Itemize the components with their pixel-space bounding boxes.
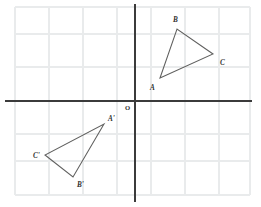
vertex-label-c: C xyxy=(220,59,225,67)
coordinate-plane-svg: A B C A' B' C' O xyxy=(0,0,261,207)
vertex-label-a: A xyxy=(149,84,155,92)
triangle-a-prime-outline xyxy=(45,124,104,177)
triangle-abc-outline xyxy=(160,29,213,78)
triangle-a-prime-b-prime-c-prime xyxy=(45,124,104,177)
origin-label: O xyxy=(125,104,130,111)
coordinate-plane-figure: A B C A' B' C' O xyxy=(0,0,261,207)
vertex-label-b-prime: B' xyxy=(76,181,84,189)
vertex-label-b: B xyxy=(172,16,178,24)
vertex-label-a-prime: A' xyxy=(107,115,115,123)
vertex-label-c-prime: C' xyxy=(33,152,40,160)
triangle-abc xyxy=(160,29,213,78)
